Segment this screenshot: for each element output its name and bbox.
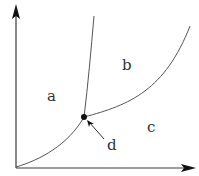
point-label-d: d xyxy=(107,136,117,154)
curve-origin-to-point xyxy=(16,117,84,167)
region-label-b: b xyxy=(122,56,132,74)
y-axis xyxy=(12,4,20,168)
point-d-marker xyxy=(81,114,87,120)
curve-rising xyxy=(84,26,190,117)
phase-diagram: a b c d xyxy=(0,0,199,176)
arrow-to-point-d xyxy=(87,120,104,139)
curve-near-vertical xyxy=(84,16,94,117)
x-axis xyxy=(16,164,196,172)
region-label-c: c xyxy=(147,118,155,136)
region-label-a: a xyxy=(47,87,56,105)
